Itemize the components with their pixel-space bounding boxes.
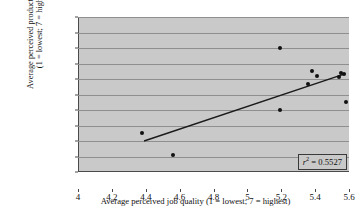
data-point — [310, 69, 314, 73]
gridline — [78, 79, 349, 80]
x-tick-mark — [180, 189, 181, 192]
y-axis-title-line2: (1 = lowest; 7 = highest) — [35, 0, 44, 68]
x-tick-mark — [146, 189, 147, 192]
x-axis-title-text: Average perceived job quality (1 = lowes… — [101, 196, 291, 206]
x-tick-mark — [112, 189, 113, 192]
x-axis-line — [78, 171, 349, 172]
x-tick-mark — [78, 189, 79, 192]
data-point — [171, 153, 175, 157]
x-tick-mark — [247, 189, 248, 192]
y-tick-mark — [75, 48, 78, 49]
y-tick-mark — [75, 156, 78, 157]
y-tick-mark — [75, 17, 78, 18]
x-tick-mark — [214, 189, 215, 192]
y-tick-mark — [75, 63, 78, 64]
plot-area: 55.15.25.35.45.55.65.75.85.96 44.24.44.6… — [78, 17, 349, 172]
y-tick-mark — [75, 172, 78, 173]
data-point — [337, 75, 341, 79]
data-point — [140, 131, 144, 135]
y-tick-mark — [75, 125, 78, 126]
r-squared-value: = 0.5527 — [309, 156, 342, 166]
y-tick-mark — [75, 94, 78, 95]
gridline — [78, 48, 349, 49]
gridline — [78, 33, 349, 34]
x-tick-mark — [281, 189, 282, 192]
gridline — [78, 141, 349, 142]
y-tick-mark — [75, 141, 78, 142]
data-point — [278, 46, 282, 50]
data-point — [278, 108, 282, 112]
gridline — [78, 64, 349, 65]
y-axis-title-line1: Average perceived productivity level — [26, 0, 35, 89]
gridline — [78, 95, 349, 96]
y-axis-title: Average perceived productivity level (1 … — [18, 0, 52, 107]
gridline — [78, 17, 349, 18]
y-tick-mark — [75, 32, 78, 33]
y-tick-mark — [75, 110, 78, 111]
x-axis-title: Average perceived job quality (1 = lowes… — [0, 196, 357, 206]
data-point — [306, 82, 310, 86]
gridline — [78, 126, 349, 127]
figure-panel-b: Average perceived productivity level (1 … — [0, 0, 357, 215]
y-tick-mark — [75, 79, 78, 80]
data-point — [342, 72, 346, 76]
gridline — [78, 110, 349, 111]
r-squared-annotation: r2 = 0.5527 — [298, 154, 347, 170]
data-point — [344, 100, 348, 104]
data-point — [315, 74, 319, 78]
x-tick-mark — [315, 189, 316, 192]
x-tick-mark — [349, 189, 350, 192]
